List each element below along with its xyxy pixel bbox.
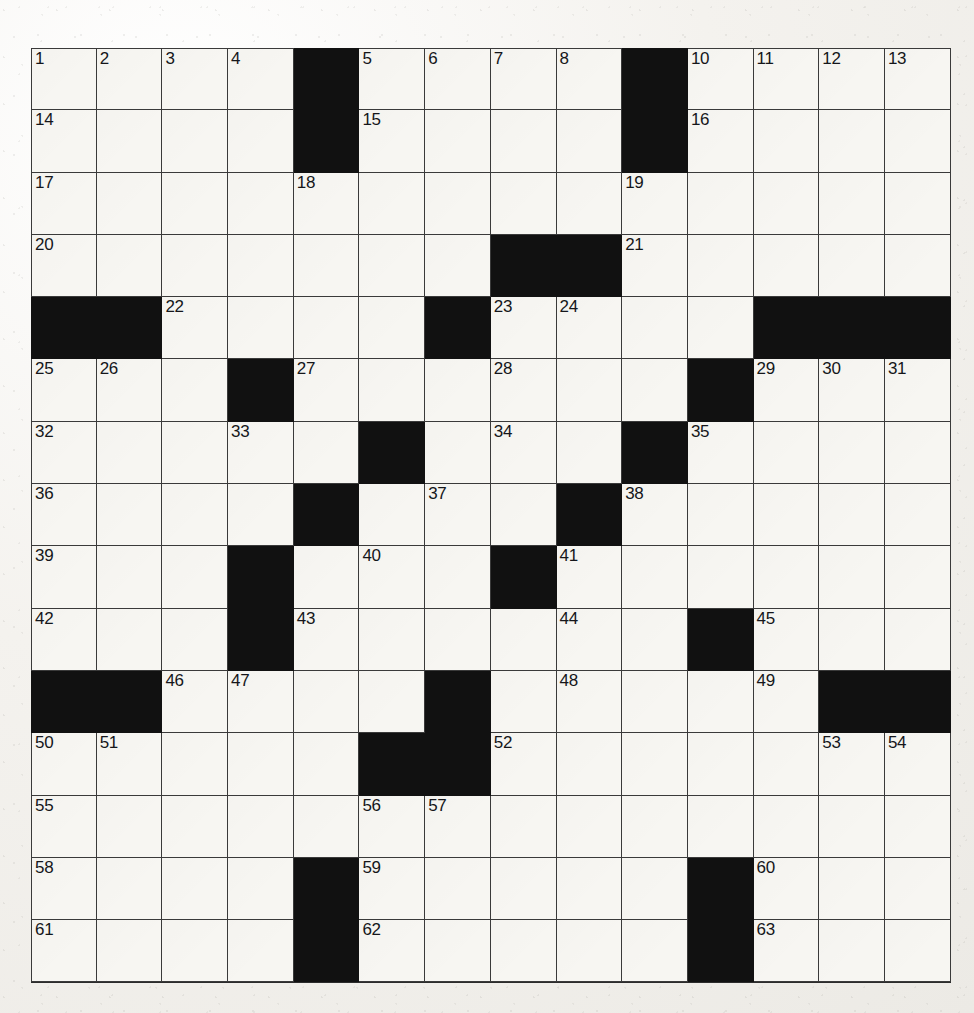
- crossword-cell[interactable]: [162, 359, 228, 421]
- crossword-cell[interactable]: [688, 546, 754, 608]
- crossword-cell[interactable]: [754, 733, 820, 795]
- crossword-cell[interactable]: [557, 858, 623, 920]
- crossword-cell[interactable]: [359, 297, 425, 359]
- crossword-cell-numbered[interactable]: 60: [754, 858, 820, 920]
- crossword-cell-numbered[interactable]: 36: [31, 484, 97, 546]
- crossword-cell[interactable]: [688, 297, 754, 359]
- crossword-cell[interactable]: [885, 609, 951, 671]
- crossword-cell[interactable]: [557, 733, 623, 795]
- crossword-cell[interactable]: [228, 235, 294, 297]
- crossword-cell[interactable]: [622, 297, 688, 359]
- crossword-cell[interactable]: [97, 546, 163, 608]
- crossword-cell[interactable]: [425, 173, 491, 235]
- crossword-cell-numbered[interactable]: 56: [359, 796, 425, 858]
- crossword-cell-numbered[interactable]: 27: [294, 359, 360, 421]
- crossword-cell[interactable]: [885, 484, 951, 546]
- crossword-cell-numbered[interactable]: 37: [425, 484, 491, 546]
- crossword-cell-numbered[interactable]: 16: [688, 110, 754, 172]
- crossword-cell[interactable]: [885, 920, 951, 982]
- crossword-cell[interactable]: [819, 546, 885, 608]
- crossword-cell-numbered[interactable]: 4: [228, 48, 294, 110]
- crossword-cell[interactable]: [294, 546, 360, 608]
- crossword-cell-numbered[interactable]: 55: [31, 796, 97, 858]
- crossword-cell[interactable]: [228, 484, 294, 546]
- crossword-cell[interactable]: [228, 110, 294, 172]
- crossword-cell-numbered[interactable]: 58: [31, 858, 97, 920]
- crossword-cell[interactable]: [557, 920, 623, 982]
- crossword-cell[interactable]: [97, 920, 163, 982]
- crossword-cell[interactable]: [97, 110, 163, 172]
- crossword-cell[interactable]: [491, 609, 557, 671]
- crossword-cell[interactable]: [425, 235, 491, 297]
- crossword-cell[interactable]: [162, 858, 228, 920]
- crossword-cell-numbered[interactable]: 20: [31, 235, 97, 297]
- crossword-cell-numbered[interactable]: 3: [162, 48, 228, 110]
- crossword-cell[interactable]: [819, 235, 885, 297]
- crossword-cell[interactable]: [491, 796, 557, 858]
- crossword-cell[interactable]: [97, 235, 163, 297]
- crossword-cell-numbered[interactable]: 48: [557, 671, 623, 733]
- crossword-cell-numbered[interactable]: 29: [754, 359, 820, 421]
- crossword-cell[interactable]: [228, 733, 294, 795]
- crossword-cell-numbered[interactable]: 30: [819, 359, 885, 421]
- crossword-cell[interactable]: [688, 484, 754, 546]
- crossword-cell[interactable]: [97, 858, 163, 920]
- crossword-cell-numbered[interactable]: 14: [31, 110, 97, 172]
- crossword-cell[interactable]: [491, 110, 557, 172]
- crossword-cell[interactable]: [97, 173, 163, 235]
- crossword-cell[interactable]: [754, 546, 820, 608]
- crossword-cell[interactable]: [491, 858, 557, 920]
- crossword-cell[interactable]: [359, 359, 425, 421]
- crossword-cell[interactable]: [557, 173, 623, 235]
- crossword-cell[interactable]: [359, 671, 425, 733]
- crossword-cell[interactable]: [162, 920, 228, 982]
- crossword-cell-numbered[interactable]: 47: [228, 671, 294, 733]
- crossword-cell[interactable]: [557, 422, 623, 484]
- crossword-cell[interactable]: [491, 173, 557, 235]
- crossword-cell[interactable]: [622, 796, 688, 858]
- crossword-cell[interactable]: [885, 173, 951, 235]
- crossword-cell[interactable]: [97, 484, 163, 546]
- crossword-cell[interactable]: [622, 671, 688, 733]
- crossword-cell[interactable]: [688, 235, 754, 297]
- crossword-cell[interactable]: [688, 173, 754, 235]
- crossword-cell[interactable]: [688, 671, 754, 733]
- crossword-cell[interactable]: [294, 796, 360, 858]
- crossword-cell[interactable]: [294, 235, 360, 297]
- crossword-cell-numbered[interactable]: 8: [557, 48, 623, 110]
- crossword-cell[interactable]: [622, 733, 688, 795]
- crossword-cell[interactable]: [819, 920, 885, 982]
- crossword-cell[interactable]: [162, 484, 228, 546]
- crossword-cell[interactable]: [425, 609, 491, 671]
- crossword-cell[interactable]: [885, 110, 951, 172]
- crossword-cell[interactable]: [162, 796, 228, 858]
- crossword-cell-numbered[interactable]: 21: [622, 235, 688, 297]
- crossword-cell[interactable]: [359, 173, 425, 235]
- crossword-cell[interactable]: [294, 733, 360, 795]
- crossword-cell[interactable]: [754, 173, 820, 235]
- crossword-cell[interactable]: [294, 297, 360, 359]
- crossword-cell[interactable]: [359, 235, 425, 297]
- crossword-cell-numbered[interactable]: 39: [31, 546, 97, 608]
- crossword-cell[interactable]: [754, 796, 820, 858]
- crossword-cell[interactable]: [228, 796, 294, 858]
- crossword-cell-numbered[interactable]: 26: [97, 359, 163, 421]
- crossword-cell-numbered[interactable]: 2: [97, 48, 163, 110]
- crossword-cell[interactable]: [162, 235, 228, 297]
- crossword-cell-numbered[interactable]: 44: [557, 609, 623, 671]
- crossword-cell[interactable]: [359, 609, 425, 671]
- crossword-cell[interactable]: [754, 422, 820, 484]
- crossword-cell[interactable]: [754, 484, 820, 546]
- crossword-cell-numbered[interactable]: 11: [754, 48, 820, 110]
- crossword-cell[interactable]: [294, 422, 360, 484]
- crossword-cell[interactable]: [754, 235, 820, 297]
- crossword-cell-numbered[interactable]: 22: [162, 297, 228, 359]
- crossword-cell-numbered[interactable]: 31: [885, 359, 951, 421]
- crossword-cell-numbered[interactable]: 18: [294, 173, 360, 235]
- crossword-cell-numbered[interactable]: 49: [754, 671, 820, 733]
- crossword-cell-numbered[interactable]: 12: [819, 48, 885, 110]
- crossword-cell[interactable]: [97, 796, 163, 858]
- crossword-cell[interactable]: [819, 110, 885, 172]
- crossword-cell-numbered[interactable]: 46: [162, 671, 228, 733]
- crossword-cell-numbered[interactable]: 17: [31, 173, 97, 235]
